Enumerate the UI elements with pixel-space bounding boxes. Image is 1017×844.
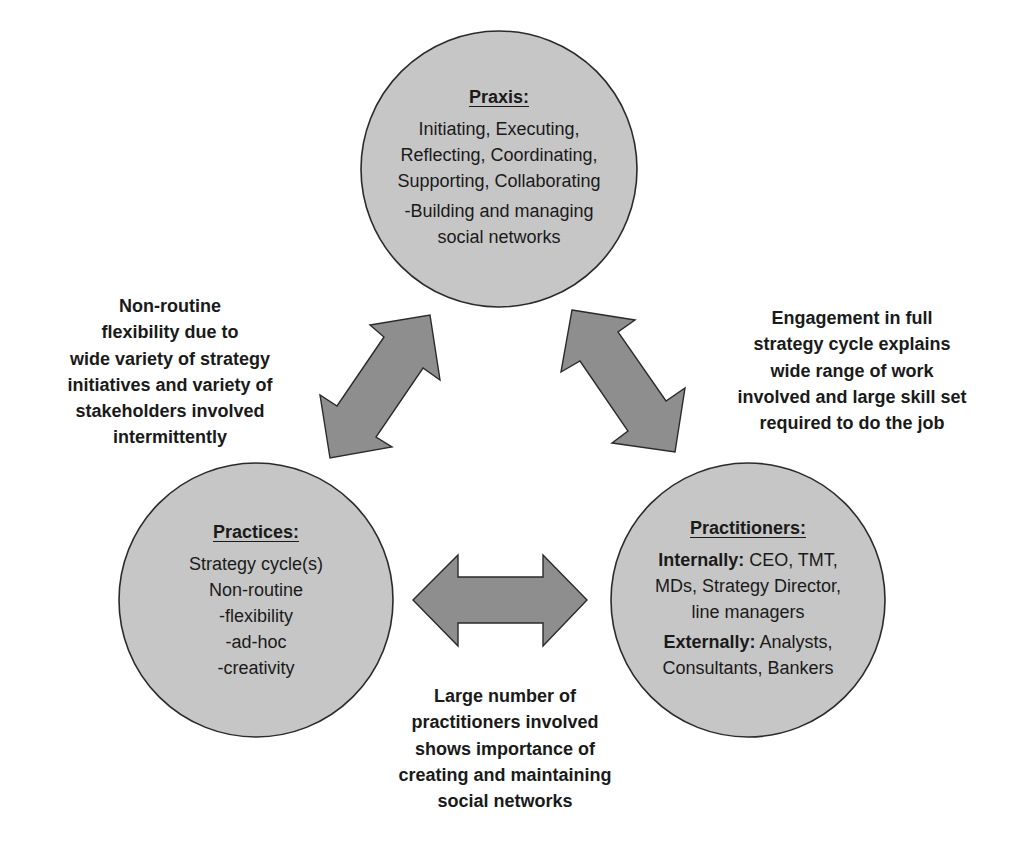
- double-arrow-praxis-practices: [320, 315, 440, 458]
- practitioners-line: MDs, Strategy Director,: [618, 573, 878, 599]
- note-line: intermittently: [40, 424, 300, 450]
- note-line: wide range of work: [712, 358, 992, 384]
- double-arrow-practices-practitioners: [413, 555, 587, 646]
- internally-value: CEO, TMT,: [744, 550, 838, 570]
- praxis-line: Reflecting, Coordinating,: [369, 142, 629, 168]
- practitioners-internally-line: Internally: CEO, TMT,: [618, 547, 878, 573]
- praxis-line: social networks: [369, 224, 629, 250]
- externally-value: Analysts,: [756, 632, 833, 652]
- note-line: wide variety of strategy: [40, 346, 300, 372]
- practices-line: -ad-hoc: [146, 629, 366, 655]
- note-line: involved and large skill set: [712, 384, 992, 410]
- practices-node-text: Practices: Strategy cycle(s) Non-routine…: [146, 519, 366, 681]
- praxis-node-text: Praxis: Initiating, Executing, Reflectin…: [369, 84, 629, 250]
- practices-heading: Practices:: [146, 519, 366, 545]
- note-praxis-practitioners: Engagement in full strategy cycle explai…: [712, 305, 992, 436]
- note-line: strategy cycle explains: [712, 331, 992, 357]
- note-line: shows importance of: [380, 736, 630, 762]
- practitioners-line: Consultants, Bankers: [618, 655, 878, 681]
- praxis-line: Supporting, Collaborating: [369, 168, 629, 194]
- practices-line: -creativity: [146, 655, 366, 681]
- note-line: creating and maintaining: [380, 762, 630, 788]
- practitioners-node-text: Practitioners: Internally: CEO, TMT, MDs…: [618, 515, 878, 681]
- note-praxis-practices: Non-routine flexibility due to wide vari…: [40, 293, 300, 451]
- note-line: Large number of: [380, 683, 630, 709]
- practices-line: Strategy cycle(s): [146, 551, 366, 577]
- practitioners-heading: Practitioners:: [618, 515, 878, 541]
- internally-label: Internally:: [658, 550, 744, 570]
- note-line: practitioners involved: [380, 709, 630, 735]
- practitioners-externally-line: Externally: Analysts,: [618, 629, 878, 655]
- practices-line: Non-routine: [146, 577, 366, 603]
- note-line: Non-routine: [40, 293, 300, 319]
- externally-label: Externally:: [663, 632, 755, 652]
- note-line: stakeholders involved: [40, 398, 300, 424]
- double-arrow-praxis-practitioners: [561, 310, 685, 452]
- practices-line: -flexibility: [146, 603, 366, 629]
- praxis-line: -Building and managing: [369, 198, 629, 224]
- note-line: social networks: [380, 788, 630, 814]
- praxis-line: Initiating, Executing,: [369, 116, 629, 142]
- note-line: required to do the job: [712, 410, 992, 436]
- practitioners-line: line managers: [618, 599, 878, 625]
- note-practices-practitioners: Large number of practitioners involved s…: [380, 683, 630, 814]
- praxis-heading: Praxis:: [369, 84, 629, 110]
- note-line: flexibility due to: [40, 319, 300, 345]
- note-line: Engagement in full: [712, 305, 992, 331]
- note-line: initiatives and variety of: [40, 372, 300, 398]
